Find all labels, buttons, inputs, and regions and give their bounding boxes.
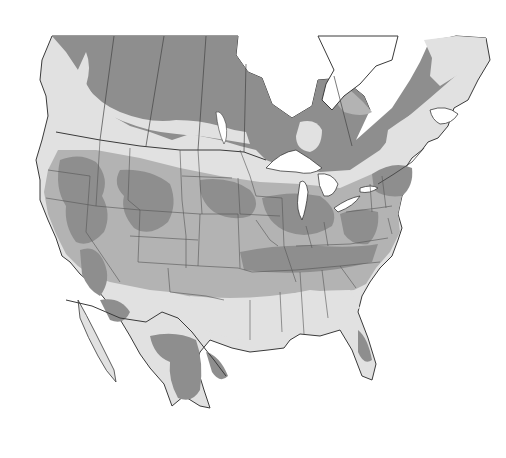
zone-dark-texas-coast <box>206 352 228 379</box>
north-america-map <box>0 0 506 458</box>
map-container <box>0 0 506 458</box>
